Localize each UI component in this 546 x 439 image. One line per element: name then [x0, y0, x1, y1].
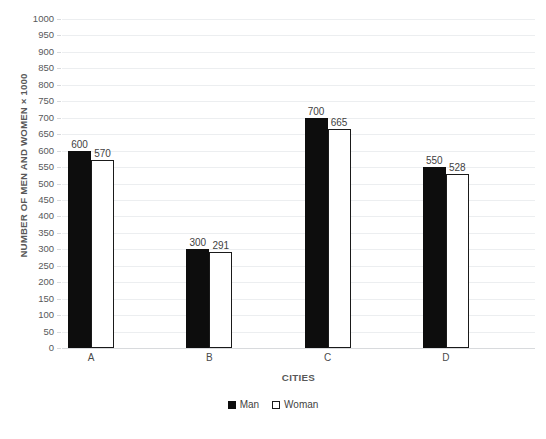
- y-axis-tick-mark: [57, 200, 61, 201]
- y-axis-tick-mark: [57, 249, 61, 250]
- y-axis-tick-label: 900: [38, 47, 54, 57]
- y-axis-tick-mark: [57, 266, 61, 267]
- y-axis-tick-mark: [57, 101, 61, 102]
- y-axis-tick-label: 500: [38, 179, 54, 189]
- legend-label: Woman: [284, 400, 318, 410]
- bar-woman-c[interactable]: [328, 129, 351, 348]
- x-axis-tick-label-b: B: [180, 352, 238, 363]
- y-axis-tick-mark: [57, 52, 61, 53]
- x-axis-tick-label-d: D: [417, 352, 475, 363]
- bar-chart: 1000950900850800750700650600550500450400…: [0, 0, 546, 439]
- bar-group: 300291: [180, 19, 298, 348]
- y-axis-tick-mark: [57, 216, 61, 217]
- bar-value-label: 528: [440, 162, 475, 173]
- y-axis-tick-mark: [57, 68, 61, 69]
- y-axis-tick-label: 400: [38, 211, 54, 221]
- bar-man-d[interactable]: [423, 167, 446, 348]
- y-axis-tick-label: 750: [38, 96, 54, 106]
- bar-group: 600570: [62, 19, 180, 348]
- bar-value-label: 665: [322, 117, 357, 128]
- legend-swatch-woman-icon: [272, 401, 280, 409]
- legend-item-man[interactable]: Man: [228, 400, 259, 410]
- y-axis-title: NUMBER OF MEN AND WOMEN × 1000: [18, 66, 29, 266]
- y-axis-tick-mark: [57, 315, 61, 316]
- y-axis-tick-label: 50: [43, 327, 54, 337]
- y-axis-tick-label: 700: [38, 113, 54, 123]
- bar-woman-a[interactable]: [91, 160, 114, 348]
- legend-label: Man: [240, 400, 259, 410]
- y-axis-tick-label: 450: [38, 195, 54, 205]
- y-axis-tick-label: 650: [38, 129, 54, 139]
- y-axis-tick-label: 200: [38, 277, 54, 287]
- bar-woman-b[interactable]: [209, 252, 232, 348]
- y-axis-tick-label: 150: [38, 294, 54, 304]
- y-axis-tick-mark: [57, 134, 61, 135]
- y-axis-tick-label: 1000: [33, 14, 54, 24]
- bar-man-c[interactable]: [305, 118, 328, 348]
- y-axis-tick-mark: [57, 348, 61, 349]
- bar-value-label: 700: [299, 106, 334, 117]
- bar-value-label: 570: [85, 148, 120, 159]
- bar-man-a[interactable]: [68, 151, 91, 348]
- bar-group: 550528: [417, 19, 535, 348]
- y-axis-tick-label: 800: [38, 80, 54, 90]
- bar-group: 700665: [299, 19, 417, 348]
- y-axis-tick-mark: [57, 184, 61, 185]
- y-axis-tick-label: 100: [38, 310, 54, 320]
- y-axis: 1000950900850800750700650600550500450400…: [0, 19, 58, 348]
- y-axis-tick-mark: [57, 151, 61, 152]
- clipped-chart-title: [0, 0, 546, 4]
- y-axis-tick-mark: [57, 85, 61, 86]
- y-axis-tick-label: 850: [38, 63, 54, 73]
- y-axis-tick-mark: [57, 35, 61, 36]
- x-axis-tick-label-a: A: [62, 352, 120, 363]
- bar-woman-d[interactable]: [446, 174, 469, 348]
- y-axis-tick-mark: [57, 299, 61, 300]
- y-axis-tick-mark: [57, 233, 61, 234]
- axis-baseline: [62, 348, 535, 349]
- y-axis-tick-label: 600: [38, 146, 54, 156]
- y-axis-tick-label: 300: [38, 244, 54, 254]
- x-axis-tick-label-c: C: [299, 352, 357, 363]
- y-axis-tick-label: 250: [38, 261, 54, 271]
- y-axis-tick-label: 0: [49, 343, 54, 353]
- bar-man-b[interactable]: [186, 249, 209, 348]
- bar-value-label: 291: [203, 240, 238, 251]
- y-axis-tick-label: 550: [38, 162, 54, 172]
- plot-area: 600570300291700665550528: [62, 19, 535, 348]
- legend-swatch-man-icon: [228, 401, 236, 409]
- y-axis-tick-mark: [57, 118, 61, 119]
- x-axis-title: CITIES: [62, 372, 535, 383]
- y-axis-tick-mark: [57, 19, 61, 20]
- x-axis-tick-labels: ABCD: [62, 352, 535, 368]
- legend-item-woman[interactable]: Woman: [272, 400, 318, 410]
- y-axis-tick-label: 350: [38, 228, 54, 238]
- y-axis-tick-mark: [57, 332, 61, 333]
- y-axis-tick-mark: [57, 282, 61, 283]
- y-axis-tick-label: 950: [38, 30, 54, 40]
- chart-legend: ManWoman: [0, 400, 546, 410]
- y-axis-tick-mark: [57, 167, 61, 168]
